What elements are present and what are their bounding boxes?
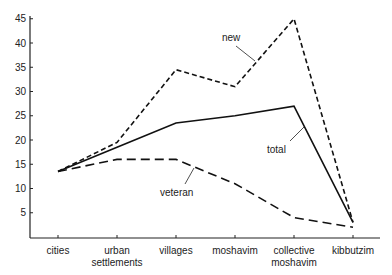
y-tick-label: 25 <box>15 110 27 121</box>
x-category-label: moshavim <box>212 245 258 256</box>
y-tick-label: 40 <box>15 38 27 49</box>
y-tick-label: 30 <box>15 86 27 97</box>
annotation-veteran: veteran <box>160 187 193 198</box>
y-tick-label: 20 <box>15 135 27 146</box>
series-annotations: new total veteran <box>160 32 304 198</box>
y-tick-label: 5 <box>20 207 26 218</box>
series-new-line <box>58 19 353 223</box>
annotation-new-leader <box>236 46 255 61</box>
series-veteran-line <box>58 159 353 227</box>
line-chart: 51015202530354045 citiesurbansettlements… <box>0 0 392 275</box>
x-category-label: urban <box>104 245 130 256</box>
annotation-veteran-leader <box>185 168 194 184</box>
y-tick-label: 45 <box>15 13 27 24</box>
x-category-label: villages <box>159 245 192 256</box>
y-tick-label: 35 <box>15 62 27 73</box>
series-lines <box>58 19 353 228</box>
x-category-label: moshavim <box>271 257 317 268</box>
x-axis: citiesurbansettlementsvillagesmoshavimco… <box>30 235 380 268</box>
x-category-label: cities <box>47 245 70 256</box>
annotation-total: total <box>267 144 286 155</box>
x-category-label: kibbutzim <box>332 245 374 256</box>
y-tick-label: 10 <box>15 183 27 194</box>
y-axis: 51015202530354045 <box>15 13 33 238</box>
x-category-label: collective <box>273 245 315 256</box>
y-tick-label: 15 <box>15 159 27 170</box>
annotation-new: new <box>222 32 241 43</box>
annotation-total-leader <box>290 127 304 141</box>
series-total-line <box>58 106 353 222</box>
x-category-label: settlements <box>91 257 142 268</box>
